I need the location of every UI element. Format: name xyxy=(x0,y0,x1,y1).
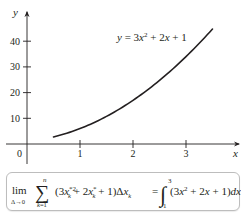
curve-quadratic xyxy=(54,29,213,137)
lim-subscript: Δ→0 xyxy=(11,198,25,205)
x-axis-label: x xyxy=(232,147,238,159)
y-axis-label: y xyxy=(12,6,18,18)
curve-equation-label: y = 3x2 + 2x + 1 xyxy=(116,31,187,43)
y-ticks: 10203040 xyxy=(10,36,31,124)
x-ticks: 123 xyxy=(78,140,189,159)
integrand: (3x2 + 2x + 1)dx xyxy=(170,185,241,198)
x-tick-label: 1 xyxy=(78,148,83,159)
integral-upper-limit: 3 xyxy=(168,177,172,185)
lim-text: lim xyxy=(12,184,27,196)
y-tick-label: 20 xyxy=(10,87,20,98)
y-tick-label: 40 xyxy=(10,36,20,47)
sum-lower-limit: k=1 xyxy=(37,201,47,208)
origin-label: 0 xyxy=(17,148,22,159)
x-tick-label: 3 xyxy=(184,148,189,159)
equals-sign: = xyxy=(152,185,158,197)
integral-lower-limit: 1 xyxy=(163,202,167,210)
summand: (3x*2k + 2x*k + 1)Δxk xyxy=(55,185,131,199)
x-tick-label: 2 xyxy=(131,148,136,159)
riemann-limit-formula: lim Δ→0 n ∑ k=1 (3x*2k + 2x*k + 1)Δxk = … xyxy=(6,172,240,211)
function-plot: 123 10203040 y x 0 y = 3x2 + 2x + 1 xyxy=(0,0,247,172)
y-tick-label: 10 xyxy=(10,113,20,124)
y-tick-label: 30 xyxy=(10,61,20,72)
